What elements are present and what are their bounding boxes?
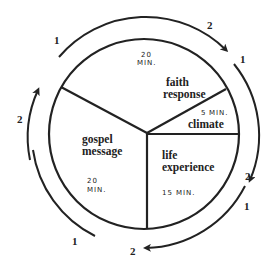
svg-text:20: 20 bbox=[141, 51, 152, 59]
segment-life-experience: life experience 15 MIN. bbox=[162, 149, 214, 197]
svg-text:15: 15 bbox=[162, 189, 173, 197]
svg-text:message: message bbox=[82, 145, 122, 158]
step-number: 1 bbox=[54, 34, 60, 46]
step-number: 2 bbox=[207, 19, 213, 31]
svg-text:MIN.: MIN. bbox=[209, 109, 229, 117]
segment-faith-response: 20 MIN. faith response bbox=[137, 51, 206, 101]
arc-bottom-left bbox=[33, 150, 95, 236]
step-number: 2 bbox=[17, 113, 23, 125]
svg-text:faith: faith bbox=[166, 76, 190, 88]
step-number: 1 bbox=[72, 235, 78, 247]
step-number: 1 bbox=[240, 53, 246, 65]
svg-text:5: 5 bbox=[201, 109, 206, 117]
svg-text:MIN.: MIN. bbox=[176, 189, 196, 197]
segment-climate: 5 MIN. climate bbox=[188, 109, 229, 130]
svg-text:climate: climate bbox=[188, 118, 224, 130]
step-number: 2 bbox=[130, 245, 136, 257]
segment-gospel-message: gospel message 20 MIN. bbox=[82, 133, 122, 194]
svg-text:experience: experience bbox=[162, 161, 214, 174]
svg-text:20: 20 bbox=[87, 177, 98, 185]
svg-text:response: response bbox=[163, 88, 206, 101]
step-number: 1 bbox=[244, 200, 250, 212]
step-number: 2 bbox=[245, 170, 251, 182]
cycle-diagram: 1 2 1 2 1 2 1 2 20 MIN. faith response 5… bbox=[0, 0, 275, 268]
arrow-left bbox=[28, 90, 38, 160]
svg-text:life: life bbox=[162, 149, 177, 161]
svg-text:MIN.: MIN. bbox=[87, 186, 107, 194]
svg-text:MIN.: MIN. bbox=[137, 59, 157, 67]
